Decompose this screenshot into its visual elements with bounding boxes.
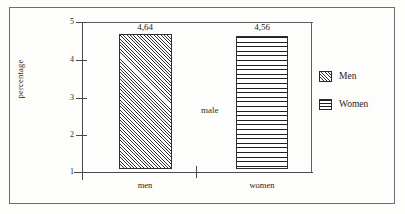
legend-swatch-women-icon (319, 99, 332, 110)
legend-swatch-men-icon (319, 71, 332, 82)
bar-value-label-men: 4,64 (115, 22, 175, 32)
x-category-label-men: men (105, 180, 185, 190)
x-axis-line (74, 172, 313, 173)
plot-right-rule (311, 22, 312, 173)
y-tick-label-4-wrap: 4 (60, 56, 74, 64)
y-tick-mark-5 (76, 22, 87, 23)
y-tick-label-4: 4 (62, 56, 74, 64)
bar-women (236, 36, 288, 169)
y-tick-label-2: 2 (62, 131, 74, 139)
y-axis-title: percentage (15, 39, 25, 119)
y-tick-label-5-wrap: 5 (60, 18, 74, 26)
legend-item-women: Women (319, 98, 391, 110)
y-tick-label-1-wrap: 1 (60, 168, 74, 176)
legend-label-men: Men (339, 71, 356, 81)
y-tick-label-2-wrap: 2 (60, 131, 74, 139)
bar-chart-figure: 5 4 3 2 1 percentage 4,64 4,56 men women… (0, 0, 405, 214)
y-tick-mark-2 (76, 135, 87, 136)
y-tick-label-1: 1 (62, 168, 74, 176)
bar-value-label-women: 4,56 (232, 22, 292, 32)
y-tick-label-3: 3 (62, 94, 74, 102)
legend-item-men: Men (319, 70, 391, 82)
bar-men (119, 34, 172, 169)
y-tick-mark-4 (76, 60, 87, 61)
y-tick-mark-3 (76, 98, 87, 99)
y-tick-mark-1 (76, 172, 87, 173)
y-axis-line (82, 22, 83, 180)
y-tick-label-3-wrap: 3 (60, 94, 74, 102)
chart-legend: Men Women (319, 70, 391, 126)
annotation-male: male (201, 105, 219, 115)
y-tick-label-5: 5 (62, 18, 74, 26)
x-axis-mid-tick (196, 166, 197, 178)
legend-label-women: Women (339, 99, 368, 109)
x-category-label-women: women (222, 180, 302, 190)
